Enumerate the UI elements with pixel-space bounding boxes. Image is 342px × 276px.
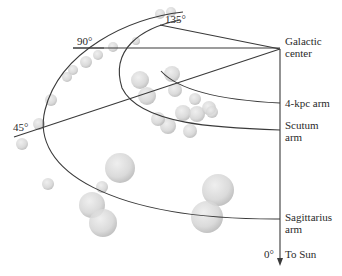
label-scutum-arm: Scutum [285, 119, 319, 131]
galactic-arms-diagram: Galactic center 4-kpc arm Scutum arm Sag… [0, 0, 342, 276]
label-galactic-center: Galactic [285, 35, 322, 47]
molecular-cloud [131, 71, 149, 89]
label-angle-90: 90° [77, 35, 92, 47]
molecular-cloud [189, 93, 201, 105]
label-angle-0: 0° [264, 248, 274, 260]
molecular-cloud [105, 153, 135, 183]
molecular-cloud [42, 178, 54, 190]
angle-45-line [14, 49, 280, 137]
label-angle-135: 135° [165, 13, 186, 25]
label-4kpc-arm: 4-kpc arm [285, 97, 330, 109]
molecular-cloud [183, 124, 197, 138]
arrow-down-icon [277, 258, 283, 266]
molecular-cloud [206, 106, 218, 118]
label-angle-45: 45° [13, 121, 28, 133]
label-sagittarius-arm-2: arm [285, 223, 303, 235]
molecular-cloud [155, 9, 165, 19]
molecular-cloud [175, 105, 191, 121]
diagram-lines [14, 12, 283, 266]
label-scutum-arm-2: arm [285, 131, 303, 143]
molecular-cloud [62, 72, 72, 82]
label-to-sun: To Sun [285, 248, 317, 260]
molecular-cloud [16, 138, 28, 150]
molecular-cloud [108, 42, 118, 52]
molecular-cloud [151, 112, 165, 126]
molecular-cloud [93, 50, 103, 60]
molecular-clouds [16, 7, 234, 237]
molecular-cloud [80, 56, 92, 68]
molecular-cloud [138, 87, 156, 105]
angle-135-line [160, 25, 280, 49]
label-sagittarius-arm: Sagittarius [285, 211, 332, 223]
label-galactic-center-2: center [285, 47, 312, 59]
molecular-cloud [89, 209, 117, 237]
